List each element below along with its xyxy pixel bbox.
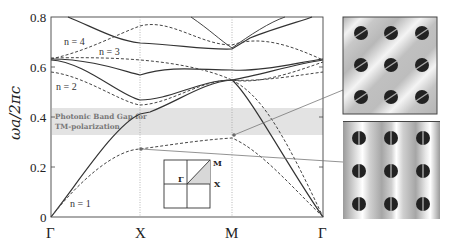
inset-label-m: M xyxy=(213,158,222,168)
y-tick-06: 0.6 xyxy=(30,60,47,75)
band-label-n3: n = 3 xyxy=(99,46,120,57)
band4-te xyxy=(51,25,323,60)
y-tick-0: 0 xyxy=(40,210,47,225)
gap-label-line1: Photonic Band Gap for xyxy=(55,112,147,121)
band3-tm xyxy=(51,59,323,75)
k-label-x: X xyxy=(135,225,146,241)
band-label-n2: n = 2 xyxy=(56,81,77,92)
field-pattern-top-panel xyxy=(343,17,437,114)
rod-grid-top xyxy=(354,26,429,104)
brillouin-zone-inset: Γ M X xyxy=(164,158,222,208)
y-tick-08: 0.8 xyxy=(30,10,46,25)
k-label-m: M xyxy=(225,225,238,241)
y-tick-04: 0.4 xyxy=(30,110,47,125)
inset-label-gamma: Γ xyxy=(178,174,184,184)
rod-grid-bottom xyxy=(352,131,430,211)
inset-label-x: X xyxy=(214,179,221,189)
y-axis-label: ωa/2πc xyxy=(6,85,24,140)
k-label-gamma-end: Γ xyxy=(318,225,327,241)
band-label-n4: n = 4 xyxy=(64,36,85,47)
field-pattern-bottom-panel xyxy=(343,121,440,219)
k-label-gamma-start: Γ xyxy=(46,225,55,241)
band-structure-figure: Photonic Band Gap for TM-polarization 0 … xyxy=(0,0,451,245)
band2-te xyxy=(51,72,323,105)
y-tick-02: 0.2 xyxy=(30,160,46,175)
gap-label-line2: TM-polarization xyxy=(55,122,121,131)
band-label-n1: n = 1 xyxy=(70,198,91,209)
band4-tm xyxy=(68,17,312,49)
